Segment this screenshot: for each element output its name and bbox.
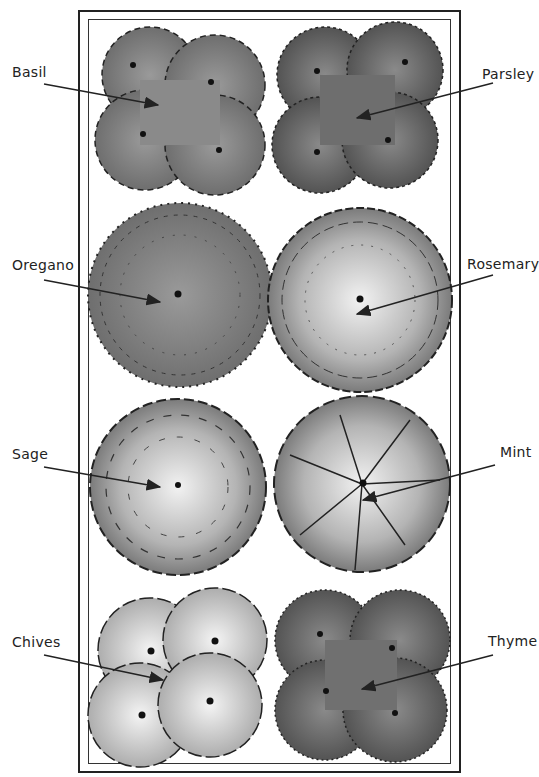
- label-thyme: Thyme: [488, 633, 537, 649]
- basil-plant-group: [95, 27, 265, 195]
- thyme-plant-group: [275, 590, 450, 762]
- rosemary-plant: [268, 208, 452, 392]
- oregano-plant: [88, 203, 272, 387]
- label-rosemary: Rosemary: [467, 256, 539, 272]
- chives-plant-group: [88, 588, 267, 767]
- label-parsley: Parsley: [482, 66, 534, 82]
- label-basil: Basil: [12, 64, 47, 80]
- label-oregano: Oregano: [12, 257, 74, 273]
- parsley-plant-group: [272, 22, 443, 193]
- sage-plant: [90, 399, 266, 575]
- label-sage: Sage: [12, 446, 48, 462]
- label-mint: Mint: [500, 444, 532, 460]
- label-chives: Chives: [12, 634, 61, 650]
